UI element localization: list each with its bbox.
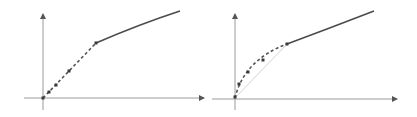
data-point [95, 42, 98, 45]
data-point [286, 43, 289, 46]
data-point [238, 83, 241, 86]
data-point [48, 91, 51, 94]
left-panel [24, 11, 204, 110]
data-point [55, 84, 58, 87]
data-point [247, 71, 250, 74]
solid-curve [96, 11, 180, 43]
data-point [68, 70, 71, 73]
chord-line [235, 44, 287, 98]
diagram-svg [0, 0, 417, 117]
solid-curve [287, 11, 374, 44]
data-point [262, 59, 265, 62]
data-point [42, 97, 45, 100]
diagram-canvas [0, 0, 417, 117]
data-point [234, 96, 237, 99]
right-panel [212, 11, 397, 110]
